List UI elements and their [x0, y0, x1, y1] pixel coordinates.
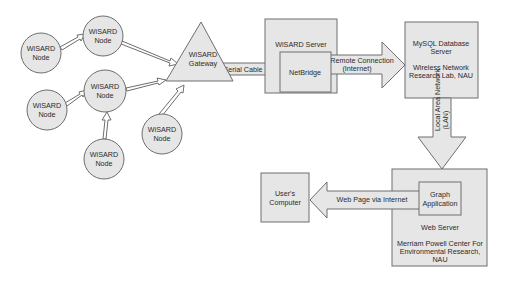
remote-connection-label: (Internet): [342, 64, 371, 73]
node-label: WiSARD: [148, 125, 176, 134]
node-label: WiSARD: [90, 150, 118, 159]
users-computer-label: Computer: [269, 198, 301, 207]
netbridge-box: NetBridge: [280, 52, 331, 92]
wisard-node-1: WiSARD Node: [21, 33, 61, 73]
node-label: WiSARD: [89, 27, 117, 36]
arrow-node5-to-node3: [102, 112, 111, 139]
wisard-node-3: WiSARD Node: [84, 70, 126, 112]
system-architecture-diagram: WiSARD Node WiSARD Node WiSARD Node WiSA…: [0, 0, 510, 282]
node-label: Node: [96, 91, 113, 100]
wisard-server-title: WiSARD Server: [275, 40, 327, 49]
gateway-label: WiSARD: [189, 50, 217, 59]
lan-label: (LAN): [441, 111, 450, 130]
users-computer: User's Computer: [261, 173, 309, 222]
node-label: Node: [95, 159, 112, 168]
web-page-label: Web Page via Internet: [337, 195, 408, 204]
arrow-node2-to-gateway: [121, 41, 178, 66]
node-label: Node: [153, 134, 170, 143]
wisard-node-2: WiSARD Node: [83, 16, 123, 56]
wisard-node-6: WiSARD Node: [142, 114, 182, 154]
users-computer-label: User's: [275, 189, 296, 198]
remote-connection-arrow: Remote Connection (Internet): [328, 42, 405, 88]
graph-application-box: Graph Application: [419, 182, 461, 215]
wisard-gateway: WiSARD Gateway: [166, 22, 233, 81]
wisard-node-5: WiSARD Node: [84, 139, 124, 179]
node-label: WiSARD: [27, 44, 55, 53]
graph-application-label: Application: [422, 199, 457, 208]
serial-cable-label: Serial Cable: [223, 65, 262, 74]
graph-application-label: Graph: [430, 190, 450, 199]
wisard-node-4: WiSARD Node: [27, 90, 67, 130]
arrow-node6-to-gateway: [159, 85, 184, 116]
web-server-title: Web Server: [421, 223, 459, 232]
node-label: WiSARD: [33, 101, 61, 110]
node-label: WiSARD: [91, 82, 119, 91]
node-label: Node: [38, 110, 55, 119]
web-server-label: NAU: [432, 255, 447, 264]
node-label: Node: [32, 53, 49, 62]
arrow-node3-to-gateway: [126, 78, 166, 91]
mysql-label: Server: [430, 47, 452, 56]
gateway-label: Gateway: [189, 59, 218, 68]
arrow-node1-to-node2: [60, 34, 85, 50]
netbridge-label: NetBridge: [289, 68, 321, 77]
node-label: Node: [94, 36, 111, 45]
